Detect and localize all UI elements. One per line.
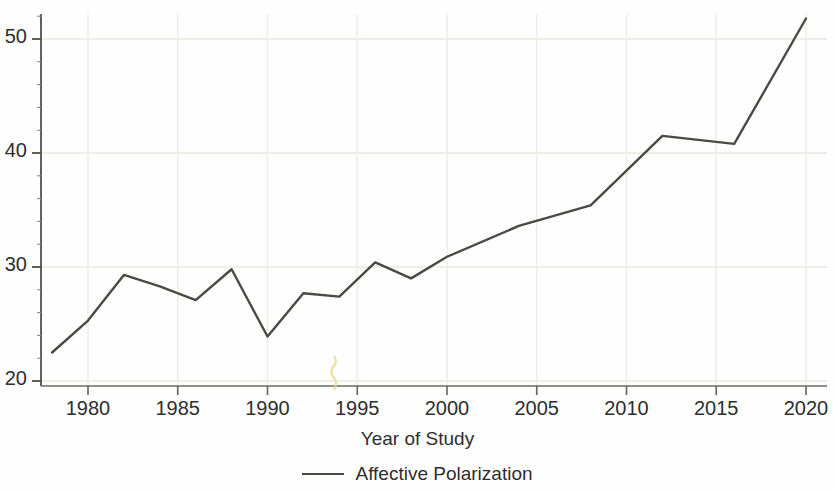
x-tick-label: 1980 [48,397,128,420]
x-tick-label: 2000 [407,397,487,420]
legend-label-affective-polarization: Affective Polarization [355,463,532,485]
chart-series-lines [52,18,806,352]
chart-tick-marks [32,16,806,395]
series-line-0 [52,18,806,352]
y-tick-label: 40 [0,139,27,162]
x-tick-label: 2005 [497,397,577,420]
chart-figure: 20304050 1980198519901995200020052010201… [0,0,835,491]
y-tick-label: 50 [0,25,27,48]
x-tick-label: 1985 [138,397,218,420]
chart-legend: Affective Polarization [0,463,835,485]
x-tick-label: 1995 [317,397,397,420]
chart-axis-lines [41,14,827,386]
y-tick-label: 30 [0,253,27,276]
x-axis-title: Year of Study [0,428,835,450]
x-tick-label: 2020 [766,397,835,420]
legend-line-swatch [302,473,344,475]
y-tick-label: 20 [0,367,27,390]
scan-artifact [331,356,336,390]
x-tick-label: 2015 [676,397,756,420]
x-tick-label: 1990 [228,397,308,420]
x-tick-label: 2010 [587,397,667,420]
scan-artifact-marks [331,356,336,390]
chart-gridlines [41,14,827,386]
